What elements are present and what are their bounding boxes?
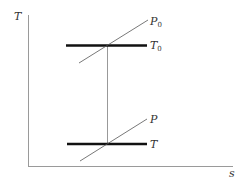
t-s-diagram: T s P0 T0 P T (0, 0, 235, 180)
static-pressure-label: P (149, 113, 158, 126)
stagnation-pressure-label: P0 (149, 15, 162, 29)
static-pressure-line (80, 119, 147, 161)
x-axis-label: s (229, 167, 235, 180)
y-axis-label: T (14, 10, 23, 23)
static-temperature-label: T (150, 138, 159, 151)
stagnation-pressure-line (79, 20, 148, 63)
stagnation-temperature-label: T0 (150, 39, 162, 53)
